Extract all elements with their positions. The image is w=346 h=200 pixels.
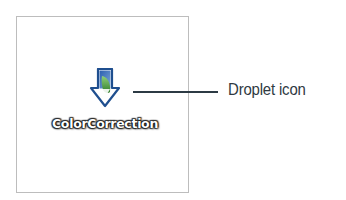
droplet-label: ColorCorrection	[30, 116, 180, 131]
callout-text: Droplet icon	[228, 80, 306, 100]
callout-line	[133, 91, 218, 93]
droplet-arrow-icon[interactable]	[89, 68, 121, 108]
